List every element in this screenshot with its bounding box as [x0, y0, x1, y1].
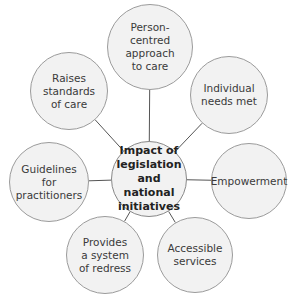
node-label: Impact of legislation and national initi… — [112, 144, 186, 214]
node-guidelines: Guidelines for practitioners — [9, 142, 89, 222]
node-label: Person- centred approach to care — [125, 21, 174, 73]
node-accessible-services: Accessible services — [157, 217, 233, 293]
node-label: Guidelines for practitioners — [16, 163, 83, 202]
node-person-centred: Person- centred approach to care — [107, 4, 193, 90]
node-individual-needs: Individual needs met — [190, 56, 268, 134]
node-raises-standards: Raises standards of care — [30, 52, 108, 130]
node-label: Individual needs met — [201, 82, 257, 108]
central-node: Impact of legislation and national initi… — [111, 141, 187, 217]
node-label: Raises standards of care — [43, 72, 95, 111]
node-label: Empowerment — [211, 175, 288, 188]
node-label: Accessible services — [168, 242, 223, 268]
node-empowerment: Empowerment — [211, 143, 287, 219]
node-label: Provides a system of redress — [79, 236, 131, 275]
connector-guidelines — [89, 180, 111, 181]
node-system-of-redress: Provides a system of redress — [66, 216, 144, 294]
